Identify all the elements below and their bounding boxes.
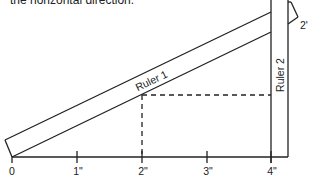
tick-label-1: 1"	[73, 165, 83, 177]
tick-label-3: 3"	[203, 165, 213, 177]
ruler-2-label: Ruler 2	[274, 58, 286, 92]
ruler-diagram: 0 1" 2" 3" 4" Ruler 2 Ruler 1 2'	[0, 0, 311, 177]
angle-label: 2'	[300, 19, 308, 31]
tick-label-2: 2"	[138, 165, 148, 177]
angle-indicator	[288, 2, 298, 24]
tick-label-0: 0	[9, 165, 15, 177]
tick-label-4: 4"	[267, 165, 277, 177]
dashed-guides	[142, 95, 271, 157]
